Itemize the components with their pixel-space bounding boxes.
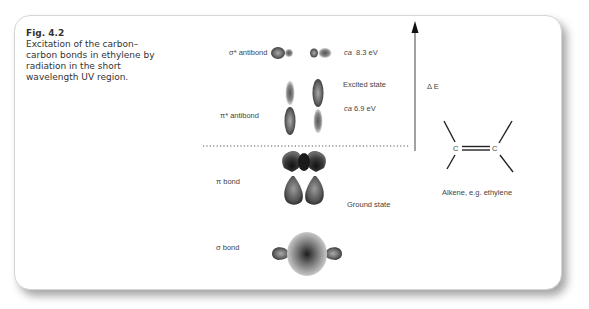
energy-arrow [412,21,419,151]
pi-antibond-orbital [285,79,324,135]
pi-antibond-label: π* antibond [220,111,259,120]
molecule-label: Alkene, e.g. ethylene [442,188,512,197]
carbon-atom-left: C [453,144,458,153]
excited-state-label: Excited state [343,80,386,89]
pi-antibond-energy: ca 6.9 eV [344,104,376,113]
energy-prefix: ca [344,104,352,113]
sigma-antibond-orbital [271,47,332,59]
pi-bond-label: π bond [216,177,240,186]
energy-prefix: ca [344,48,352,57]
sigma-antibond-label: σ* antibond [229,48,267,57]
energy-value: 6.9 eV [354,104,376,113]
sigma-bond-orbital [272,232,342,276]
orbital-diagram [0,0,589,309]
ground-state-label: Ground state [347,200,390,209]
energy-value: 8.3 eV [356,48,378,57]
pi-bond-orbital [282,151,326,205]
delta-e-label: Δ E [427,82,439,91]
sigma-bond-label: σ bond [216,243,239,252]
carbon-atom-right: C [492,144,497,153]
sigma-antibond-energy: ca 8.3 eV [344,48,378,57]
